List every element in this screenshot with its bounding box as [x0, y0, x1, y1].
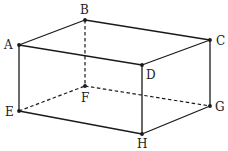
vertex-label-c: C: [216, 34, 225, 48]
edge-da: [19, 45, 142, 65]
vertex-label-f: F: [81, 91, 89, 105]
edge-bc: [85, 20, 210, 40]
vertex-label-e: E: [5, 105, 14, 119]
vertex-point-h: [140, 132, 144, 136]
vertex-point-d: [140, 63, 144, 67]
vertex-point-a: [17, 43, 21, 47]
vertex-label-d: D: [146, 68, 156, 82]
vertex-label-a: A: [3, 38, 13, 52]
vertex-label-g: G: [215, 100, 225, 114]
visible-edges: [19, 20, 210, 134]
vertex-point-b: [83, 18, 87, 22]
vertex-point-g: [208, 104, 212, 108]
edge-ab: [19, 20, 85, 45]
hidden-edge-ef: [19, 86, 85, 111]
vertex-point-e: [17, 109, 21, 113]
vertex-label-h: H: [137, 137, 147, 151]
edge-eh: [19, 111, 142, 134]
vertex-label-b: B: [80, 3, 89, 17]
edge-hg: [142, 106, 210, 134]
edge-cd: [142, 40, 210, 65]
hidden-edge-fg: [85, 86, 210, 106]
vertex-point-f: [83, 84, 87, 88]
prism-diagram: A B C D E F G H: [0, 0, 228, 151]
vertex-point-c: [208, 38, 212, 42]
